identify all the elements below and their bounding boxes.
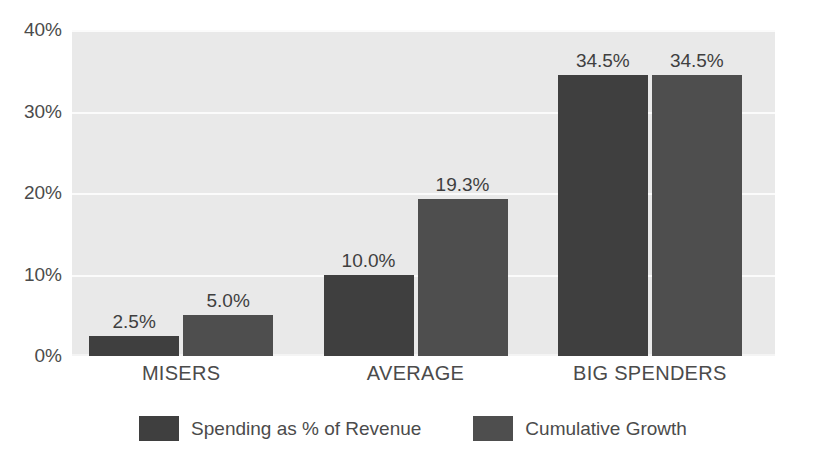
legend-swatch-icon	[139, 416, 179, 441]
bar-value-label: 34.5%	[670, 50, 724, 72]
bar: 19.3%	[418, 199, 508, 356]
bar-value-label: 5.0%	[207, 290, 250, 312]
bar-chart: 0%10%20%30%40% 2.5%5.0%10.0%19.3%34.5%34…	[0, 0, 826, 474]
bar-value-label: 19.3%	[436, 174, 490, 196]
x-axis-tick-label: BIG SPENDERS	[573, 362, 727, 385]
legend-label: Cumulative Growth	[525, 418, 687, 440]
y-axis-tick-label: 40%	[24, 19, 62, 41]
y-axis: 0%10%20%30%40%	[0, 30, 62, 356]
y-axis-tick-label: 20%	[24, 182, 62, 204]
y-axis-tick-label: 10%	[24, 264, 62, 286]
legend-item[interactable]: Spending as % of Revenue	[139, 416, 421, 441]
x-axis-tick-label: MISERS	[142, 362, 220, 385]
bar: 10.0%	[324, 275, 414, 357]
legend-label: Spending as % of Revenue	[191, 418, 421, 440]
bar-value-label: 34.5%	[576, 50, 630, 72]
bar: 5.0%	[183, 315, 273, 356]
bar: 2.5%	[89, 336, 179, 356]
bar: 34.5%	[652, 75, 742, 356]
y-axis-tick-label: 0%	[35, 345, 62, 367]
bars-layer: 2.5%5.0%10.0%19.3%34.5%34.5%	[72, 30, 775, 356]
legend-item[interactable]: Cumulative Growth	[473, 416, 687, 441]
bar: 34.5%	[558, 75, 648, 356]
x-axis-tick-label: AVERAGE	[367, 362, 464, 385]
chart-legend: Spending as % of RevenueCumulative Growt…	[0, 416, 826, 441]
legend-swatch-icon	[473, 416, 513, 441]
bar-value-label: 10.0%	[342, 250, 396, 272]
y-axis-tick-label: 30%	[24, 101, 62, 123]
bar-value-label: 2.5%	[113, 311, 156, 333]
x-axis: MISERSAVERAGEBIG SPENDERS	[72, 362, 775, 394]
